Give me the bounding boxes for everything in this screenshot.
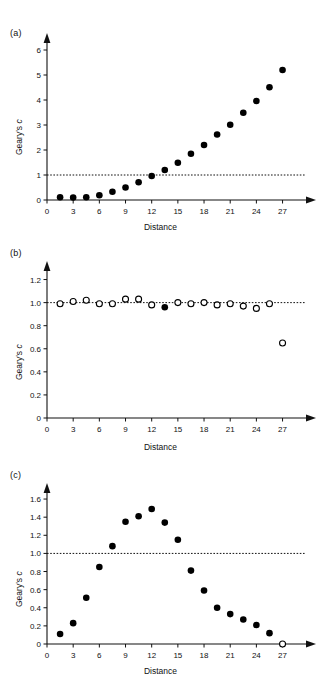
svg-text:1.6: 1.6 [30,495,42,504]
geary-c-figure: (a) Geary's c Distance 01234560369121518… [0,0,321,686]
svg-text:0: 0 [37,196,42,205]
svg-text:27: 27 [278,425,287,434]
svg-text:0.6: 0.6 [30,345,42,354]
svg-text:5: 5 [37,71,42,80]
svg-text:1.2: 1.2 [30,531,42,540]
panel-a: (a) Geary's c Distance 01234560369121518… [0,0,321,240]
svg-text:0.2: 0.2 [30,622,42,631]
svg-text:27: 27 [278,651,287,660]
svg-text:0.6: 0.6 [30,586,42,595]
svg-text:0.2: 0.2 [30,391,42,400]
svg-text:9: 9 [123,207,128,216]
svg-text:6: 6 [97,651,102,660]
svg-text:0: 0 [45,207,50,216]
svg-text:24: 24 [252,207,261,216]
svg-text:6: 6 [97,207,102,216]
svg-text:6: 6 [97,425,102,434]
svg-text:3: 3 [71,425,76,434]
svg-text:21: 21 [226,425,235,434]
svg-text:24: 24 [252,425,261,434]
svg-text:0.4: 0.4 [30,368,42,377]
svg-text:12: 12 [147,651,156,660]
panel-c-plot: 00.20.40.60.81.01.21.41.6036912151821242… [0,462,321,686]
panel-a-plot: 01234560369121518212427 [0,0,321,240]
svg-text:12: 12 [147,207,156,216]
svg-text:9: 9 [123,425,128,434]
svg-text:3: 3 [71,651,76,660]
svg-text:27: 27 [278,207,287,216]
svg-text:0: 0 [37,414,42,423]
svg-text:1.0: 1.0 [30,299,42,308]
svg-text:24: 24 [252,651,261,660]
panel-c: (c) Geary's c Distance 00.20.40.60.81.01… [0,462,321,686]
svg-text:0.8: 0.8 [30,568,42,577]
svg-text:3: 3 [71,207,76,216]
svg-text:0: 0 [45,651,50,660]
svg-text:1.4: 1.4 [30,513,42,522]
svg-text:15: 15 [173,425,182,434]
svg-text:1: 1 [37,171,42,180]
svg-text:0: 0 [45,425,50,434]
svg-text:1.2: 1.2 [30,276,42,285]
svg-text:0.8: 0.8 [30,322,42,331]
svg-text:15: 15 [173,207,182,216]
svg-text:21: 21 [226,207,235,216]
svg-text:0: 0 [37,640,42,649]
svg-text:4: 4 [37,96,42,105]
svg-text:18: 18 [200,207,209,216]
panel-b-plot: 00.20.40.60.81.01.20369121518212427 [0,240,321,462]
svg-text:2: 2 [37,146,42,155]
svg-text:0.4: 0.4 [30,604,42,613]
svg-text:3: 3 [37,121,42,130]
svg-text:1.0: 1.0 [30,549,42,558]
svg-text:15: 15 [173,651,182,660]
svg-text:18: 18 [200,425,209,434]
svg-text:21: 21 [226,651,235,660]
svg-text:9: 9 [123,651,128,660]
svg-text:6: 6 [37,46,42,55]
svg-text:12: 12 [147,425,156,434]
panel-b: (b) Geary's c Distance 00.20.40.60.81.01… [0,240,321,462]
svg-text:18: 18 [200,651,209,660]
